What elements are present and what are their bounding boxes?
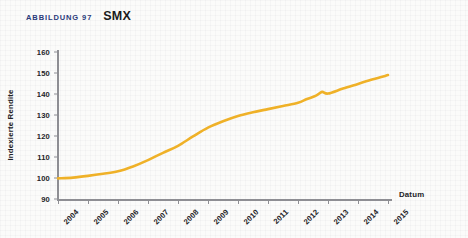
x-tick-mark-2005 [88,199,89,204]
y-tick-110: 110 [37,153,58,162]
x-tick-label-2014: 2014 [362,207,381,226]
x-tick-mark-2010 [238,199,239,204]
x-tick-label-2005: 2005 [92,207,111,226]
x-axis-label: Datum [399,190,424,199]
x-tick-label-2006: 2006 [122,207,141,226]
y-tick-160: 160 [37,48,58,57]
series-line-smx [58,52,388,199]
figure-header: ABBILDUNG 97 SMX [26,9,131,23]
x-tick-mark-2013 [328,199,329,204]
y-tick-label: 90 [41,195,50,204]
x-tick-label-2011: 2011 [272,207,291,226]
x-tick-label-2007: 2007 [152,207,171,226]
figure-smx-chart: ABBILDUNG 97 SMX Indexierte Rendite Datu… [0,0,468,238]
x-tick-mark-2011 [268,199,269,204]
x-tick-label-2015: 2015 [392,207,411,226]
plot-area: 16015014013012011010090 2004200520062007… [58,52,388,199]
x-tick-label-2010: 2010 [242,207,261,226]
x-tick-label-2013: 2013 [332,207,351,226]
y-tick-130: 130 [37,111,58,120]
x-tick-mark-2009 [208,199,209,204]
x-tick-label-2012: 2012 [302,207,321,226]
x-tick-label-2009: 2009 [212,207,231,226]
y-tick-label: 110 [37,153,50,162]
x-tick-mark-2014 [358,199,359,204]
x-axis-line [57,199,392,201]
x-tick-mark-2008 [178,199,179,204]
x-tick-mark-2004 [58,199,59,204]
x-tick-mark-2007 [148,199,149,204]
y-tick-120: 120 [37,132,58,141]
y-tick-label: 130 [37,111,50,120]
x-tick-label-2008: 2008 [182,207,201,226]
x-tick-label-2004: 2004 [62,207,81,226]
y-tick-90: 90 [41,195,58,204]
y-tick-100: 100 [37,174,58,183]
page-title: SMX [103,9,131,23]
x-tick-mark-2015 [388,199,389,204]
y-axis-label: Indexierte Rendite [6,89,15,160]
x-tick-mark-2006 [118,199,119,204]
y-tick-label: 120 [37,132,50,141]
y-tick-label: 100 [37,174,50,183]
y-tick-label: 140 [37,90,50,99]
x-tick-mark-2012 [298,199,299,204]
y-tick-140: 140 [37,90,58,99]
y-tick-150: 150 [37,69,58,78]
y-tick-label: 160 [37,48,50,57]
series-path-smx [58,75,388,178]
y-tick-label: 150 [37,69,50,78]
figure-number-label: ABBILDUNG 97 [26,13,92,22]
